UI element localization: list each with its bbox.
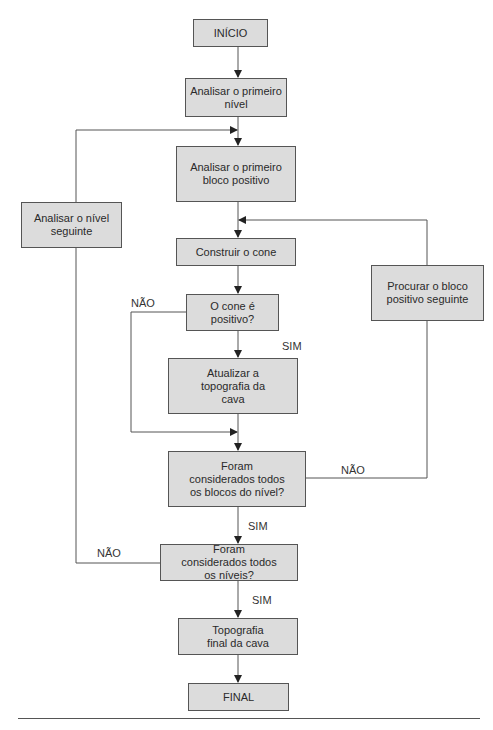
- edge-label-niveis-nao: NÃO: [97, 547, 121, 559]
- node-procurar-bloco: Procurar o bloco positivo seguinte: [371, 265, 484, 321]
- bottom-divider: [18, 718, 480, 719]
- node-cone-positivo: O cone é positivo?: [186, 294, 279, 331]
- edge-label-cone-nao: NÃO: [131, 297, 155, 309]
- node-construir-cone: Construir o cone: [176, 238, 296, 266]
- node-topografia-final: Topografia final da cava: [178, 618, 298, 655]
- edge-label-blocos-nao: NÃO: [341, 464, 365, 476]
- node-analisar-primeiro-bloco: Analisar o primeiro bloco positivo: [176, 146, 296, 202]
- node-final: FINAL: [188, 683, 289, 711]
- edge-label-niveis-sim: SIM: [252, 594, 272, 606]
- node-atualizar-topografia: Atualizar a topografia da cava: [168, 358, 298, 414]
- node-todos-blocos: Foram considerados todos os blocos do ní…: [168, 451, 306, 507]
- node-analisar-primeiro-nivel: Analisar o primeiro nível: [185, 78, 287, 117]
- node-analisar-nivel-seguinte: Analisar o nível seguinte: [21, 202, 122, 248]
- node-todos-niveis: Foram considerados todos os níveis?: [160, 544, 298, 581]
- edge-label-cone-sim: SIM: [282, 340, 302, 352]
- node-inicio: INÍCIO: [193, 19, 268, 47]
- edge-label-blocos-sim: SIM: [248, 520, 268, 532]
